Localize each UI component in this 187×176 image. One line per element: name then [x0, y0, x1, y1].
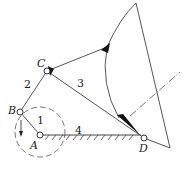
- label-link-3: 3: [77, 77, 84, 90]
- joint-b: [17, 109, 23, 115]
- rotation-arrow-icon: [19, 120, 23, 137]
- label-link-1: 1: [37, 114, 44, 127]
- ground-link-4: [40, 135, 141, 140]
- joint-d: [141, 135, 147, 141]
- joint-a: [37, 132, 43, 138]
- center-line: [130, 72, 180, 116]
- label-link-4: 4: [75, 124, 82, 137]
- label-d: D: [138, 142, 148, 155]
- sector-body: [105, 3, 170, 148]
- link-3-upper: [47, 47, 107, 71]
- label-c: C: [37, 57, 46, 70]
- link-3-lower: [47, 71, 144, 138]
- linkage-diagram: A B C D 1 2 3 4: [0, 0, 187, 176]
- weld-d-icon: [117, 114, 140, 135]
- label-link-2: 2: [24, 78, 31, 91]
- label-a: A: [29, 139, 38, 152]
- label-b: B: [7, 104, 16, 117]
- weld-arc-icon: [101, 43, 110, 53]
